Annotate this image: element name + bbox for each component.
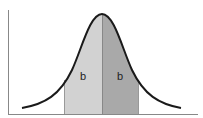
diagram-canvas: b b [0,0,203,118]
normal-distribution-diagram: b b [0,0,203,118]
left-band-label: b [80,70,86,82]
right-band-label: b [117,70,123,82]
